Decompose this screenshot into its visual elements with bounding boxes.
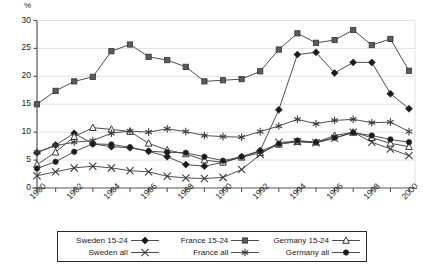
- legend-label: France 15-24: [181, 236, 229, 245]
- data-marker-filled-circle: [72, 149, 77, 154]
- data-marker-filled-circle: [146, 148, 151, 153]
- data-marker-open-triangle: [52, 149, 59, 155]
- data-marker-x-cross: [52, 168, 59, 175]
- data-marker-filled-circle: [202, 154, 207, 159]
- y-tick-10: 10: [9, 127, 31, 136]
- data-marker-asterisk: [276, 122, 283, 130]
- data-marker-filled-square: [146, 54, 151, 59]
- data-marker-filled-diamond: [368, 59, 375, 66]
- data-marker-filled-square: [313, 40, 318, 45]
- legend-marker-asterisk-icon: [230, 247, 260, 258]
- data-marker-filled-diamond: [275, 106, 282, 113]
- legend-entry-sweden-15-24[interactable]: Sweden 15-24: [61, 234, 162, 247]
- plot-area: [0, 0, 423, 269]
- data-marker-filled-square: [72, 79, 77, 84]
- data-marker-filled-square: [165, 58, 170, 63]
- legend-entry-france-all[interactable]: France all: [162, 247, 263, 260]
- gridlines: [37, 21, 415, 161]
- legend-entry-germany-15-24[interactable]: Germany 15-24: [262, 234, 363, 247]
- chart-legend: Sweden 15-24France 15-24Germany 15-24Swe…: [57, 231, 367, 262]
- data-marker-filled-square: [388, 36, 393, 41]
- data-marker-filled-circle: [34, 166, 39, 171]
- data-marker-asterisk: [257, 128, 264, 136]
- series-france-15-24: [34, 27, 411, 106]
- legend-label: France all: [193, 248, 228, 257]
- data-marker-filled-square: [243, 238, 248, 243]
- legend-marker-open-triangle-icon: [331, 235, 361, 246]
- data-marker-filled-circle: [90, 141, 95, 146]
- data-marker-filled-diamond: [201, 163, 208, 170]
- legend-marker-filled-square-icon: [230, 235, 260, 246]
- data-marker-open-triangle: [145, 140, 152, 146]
- unemployment-rate-line-chart: % 051015202530 1980198219841986198819901…: [0, 0, 423, 269]
- series-france-all: [34, 116, 413, 157]
- data-marker-filled-circle: [183, 150, 188, 155]
- legend-label: Sweden 15-24: [76, 236, 128, 245]
- y-tick-0: 0: [9, 183, 31, 192]
- data-marker-x-cross: [405, 152, 412, 159]
- data-marker-filled-square: [109, 49, 114, 54]
- data-marker-filled-square: [351, 27, 356, 32]
- y-tick-15: 15: [9, 99, 31, 108]
- data-marker-filled-circle: [369, 133, 374, 138]
- y-tick-20: 20: [9, 71, 31, 80]
- data-marker-filled-square: [90, 74, 95, 79]
- data-marker-filled-circle: [276, 141, 281, 146]
- data-marker-filled-circle: [295, 138, 300, 143]
- data-marker-open-triangle: [89, 124, 96, 130]
- data-marker-asterisk: [406, 128, 413, 136]
- data-marker-filled-circle: [313, 140, 318, 145]
- data-marker-filled-circle: [406, 140, 411, 145]
- legend-entry-sweden-all[interactable]: Sweden all: [61, 247, 162, 260]
- data-marker-filled-square: [183, 64, 188, 69]
- legend-label: Sweden all: [89, 248, 128, 257]
- data-marker-filled-square: [276, 47, 281, 52]
- data-marker-filled-circle: [53, 159, 58, 164]
- data-marker-filled-diamond: [294, 51, 301, 58]
- legend-entry-france-15-24[interactable]: France 15-24: [162, 234, 263, 247]
- data-marker-filled-square: [258, 69, 263, 74]
- legend-label: Germany all: [286, 248, 329, 257]
- legend-marker-x-cross-icon: [130, 247, 160, 258]
- data-marker-filled-diamond: [350, 59, 357, 66]
- data-marker-filled-circle: [220, 158, 225, 163]
- data-marker-x-cross: [238, 166, 245, 173]
- data-marker-filled-square: [295, 31, 300, 36]
- legend-label: Germany 15-24: [273, 236, 329, 245]
- data-marker-filled-diamond: [141, 237, 148, 244]
- data-marker-filled-square: [239, 77, 244, 82]
- legend-marker-filled-diamond-icon: [130, 235, 160, 246]
- data-marker-filled-circle: [258, 148, 263, 153]
- legend-marker-filled-circle-icon: [331, 247, 361, 258]
- data-marker-filled-square: [34, 102, 39, 107]
- data-marker-filled-circle: [351, 130, 356, 135]
- y-tick-30: 30: [9, 16, 31, 25]
- data-marker-filled-circle: [332, 135, 337, 140]
- data-marker-filled-square: [332, 37, 337, 42]
- series-sweden-15-24: [34, 49, 413, 170]
- data-marker-filled-diamond: [182, 161, 189, 168]
- y-tick-5: 5: [9, 155, 31, 164]
- data-marker-filled-circle: [343, 250, 348, 255]
- data-marker-asterisk: [294, 116, 301, 124]
- y-tick-25: 25: [9, 43, 31, 52]
- data-marker-filled-square: [202, 79, 207, 84]
- data-marker-filled-square: [406, 68, 411, 73]
- data-marker-filled-circle: [239, 154, 244, 159]
- data-marker-filled-square: [127, 42, 132, 47]
- data-marker-filled-square: [53, 88, 58, 93]
- legend-entry-germany-all[interactable]: Germany all: [262, 247, 363, 260]
- data-marker-filled-circle: [109, 142, 114, 147]
- data-marker-filled-circle: [127, 145, 132, 150]
- data-marker-filled-circle: [388, 137, 393, 142]
- data-marker-filled-square: [369, 42, 374, 47]
- data-marker-filled-circle: [165, 150, 170, 155]
- data-marker-filled-square: [220, 78, 225, 83]
